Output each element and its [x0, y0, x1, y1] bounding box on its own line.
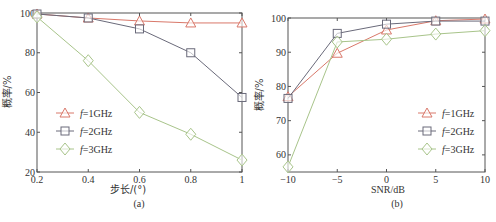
y-tick-label: 20	[25, 167, 35, 178]
legend-label: f=1GHz	[80, 108, 113, 119]
legend-label: f=3GHz	[80, 144, 113, 155]
legend-item: f=1GHz	[56, 108, 113, 119]
legend-label: f=3GHz	[442, 144, 475, 155]
y-axis-label-a: 概率/%	[1, 76, 13, 109]
legend-label: f=2GHz	[80, 126, 113, 137]
series-line	[37, 17, 242, 160]
square-marker-icon	[383, 20, 391, 28]
square-marker-icon	[238, 93, 246, 101]
diamond-marker-icon	[480, 25, 490, 37]
legend-item: f=3GHz	[56, 143, 113, 155]
x-tick-label: −10	[280, 174, 296, 185]
diamond-marker-icon	[237, 154, 247, 166]
diamond-marker-icon	[431, 28, 441, 40]
legend-item: f=2GHz	[418, 126, 475, 137]
figure: 0.20.40.60.8120406080100 f=1GHzf=2GHzf=3…	[0, 0, 496, 222]
legend-label: f=2GHz	[442, 126, 475, 137]
square-marker-icon	[284, 94, 292, 102]
legend-item: f=2GHz	[56, 126, 113, 137]
legend-a: f=1GHzf=2GHzf=3GHz	[56, 108, 113, 156]
square-marker-icon	[84, 14, 92, 22]
caption-b: (b)	[391, 198, 403, 210]
y-tick-label: 90	[276, 47, 286, 58]
x-axis-label-b: SNR/dB	[371, 184, 405, 195]
x-tick-label: −5	[332, 174, 343, 185]
legend-item: f=3GHz	[418, 143, 475, 155]
diamond-marker-icon	[382, 33, 392, 45]
y-tick-label: 70	[276, 115, 286, 126]
x-tick-label: 0.4	[82, 174, 95, 185]
x-tick-label: 5	[433, 174, 438, 185]
series-lines-a	[32, 9, 247, 166]
square-marker-icon	[432, 17, 440, 25]
x-tick-label: 1	[240, 174, 245, 185]
square-marker-icon	[187, 49, 195, 57]
x-tick-label: 0.8	[185, 174, 198, 185]
square-marker-icon	[481, 17, 489, 25]
y-tick-label: 60	[276, 149, 286, 160]
legend-label: f=1GHz	[442, 108, 475, 119]
y-tick-label: 80	[276, 81, 286, 92]
legend-item: f=1GHz	[418, 108, 475, 119]
diamond-marker-icon	[60, 143, 70, 155]
diamond-marker-icon	[283, 161, 293, 173]
square-marker-icon	[136, 25, 144, 33]
y-axis-label-b: 概率/%	[253, 79, 265, 112]
caption-a: (a)	[133, 198, 144, 210]
square-marker-icon	[61, 127, 69, 135]
y-tick-label: 60	[25, 87, 35, 98]
chart-panel-a: 0.20.40.60.8120406080100 f=1GHzf=2GHzf=3…	[1, 8, 247, 211]
x-axis-label-a: 步长/(°)	[110, 184, 146, 195]
axis-ticks-a: 0.20.40.60.8120406080100	[20, 8, 245, 186]
axis-ticks-b: −10−5051060708090100	[271, 13, 490, 186]
y-tick-label: 80	[25, 47, 35, 58]
square-marker-icon	[423, 127, 431, 135]
diamond-marker-icon	[422, 143, 432, 155]
y-tick-label: 40	[25, 127, 35, 138]
x-tick-label: 10	[480, 174, 490, 185]
diamond-marker-icon	[186, 128, 196, 140]
y-tick-label: 100	[271, 13, 286, 24]
chart-panel-b: −10−5051060708090100 f=1GHzf=2GHzf=3GHz …	[253, 13, 490, 211]
legend-b: f=1GHzf=2GHzf=3GHz	[418, 108, 475, 156]
